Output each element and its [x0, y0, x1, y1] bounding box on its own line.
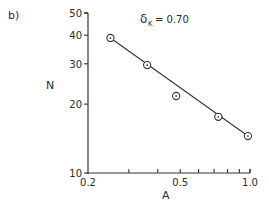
- y-tick-label: 40: [69, 30, 82, 41]
- y-tick: 50: [69, 8, 88, 19]
- data-point-marker: [107, 34, 114, 41]
- annotation-value: = 0.70: [155, 14, 189, 25]
- data-point-marker: [173, 92, 180, 99]
- x-ticks: 0.20.51.0: [80, 169, 258, 188]
- y-tick-label: 20: [69, 99, 82, 110]
- x-tick: 0.2: [80, 177, 96, 188]
- x-tick-label: 0.5: [172, 177, 188, 188]
- y-tick: 30: [69, 59, 88, 70]
- panel-label: b): [8, 9, 19, 22]
- annotation-symbol: δ: [140, 12, 147, 26]
- x-tick: 1.0: [242, 169, 258, 188]
- data-point-marker: [215, 113, 222, 120]
- data-series: [107, 34, 252, 139]
- x-tick: 0.5: [172, 169, 188, 188]
- annotation: δ K = 0.70: [140, 12, 189, 28]
- data-point-marker: [144, 62, 151, 69]
- y-tick: 20: [69, 99, 88, 110]
- annotation-subscript: K: [148, 20, 153, 28]
- y-tick-label: 50: [69, 8, 82, 19]
- y-ticks: 1020304050: [69, 8, 88, 179]
- y-axis-label: N: [46, 79, 54, 92]
- data-point-marker: [244, 132, 251, 139]
- y-tick-label: 30: [69, 59, 82, 70]
- fit-line: [110, 38, 248, 136]
- x-tick-label: 1.0: [242, 177, 258, 188]
- x-axis-label: A: [162, 189, 170, 202]
- x-tick-label: 0.2: [80, 177, 96, 188]
- y-tick: 40: [69, 30, 88, 41]
- log-log-chart: b) N A δ K = 0.70 1020304050 0.20.51.0: [0, 0, 269, 207]
